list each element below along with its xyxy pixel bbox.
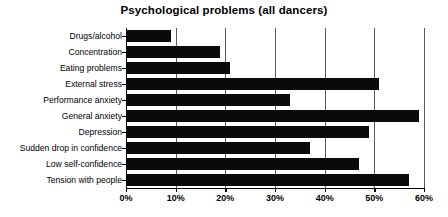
x-axis-tick-labels: 0%10%20%30%40%50%60% [0,193,448,207]
y-axis-label: Low self-confidence [0,160,122,169]
x-axis-tick [374,188,375,192]
bar [126,62,230,73]
bar-row [126,30,424,41]
bar [126,142,310,153]
x-axis-tick [225,188,226,192]
bar [126,158,359,169]
bar [126,110,419,121]
bar-row [126,126,424,137]
bar-row [126,158,424,169]
bar-series [126,28,424,188]
bar-chart: Psychological problems (all dancers) Dru… [0,0,448,217]
gridline [424,28,425,188]
y-axis-label: Concentration [0,48,122,57]
x-axis-tick-label: 40% [316,193,334,203]
x-axis-tick-label: 60% [415,193,433,203]
bar-row [126,94,424,105]
y-axis-label: General anxiety [0,112,122,121]
x-axis-tick [126,188,127,192]
x-axis-tick [424,188,425,192]
y-axis-label: Tension with people [0,176,122,185]
x-axis-tick-label: 10% [167,193,185,203]
chart-title: Psychological problems (all dancers) [0,4,448,16]
bar [126,46,220,57]
x-axis-tick-label: 30% [266,193,284,203]
y-axis-label: Performance anxiety [0,96,122,105]
y-axis-label: Depression [0,128,122,137]
bar [126,174,409,185]
bar-row [126,78,424,89]
y-axis-label: Drugs/alcohol [0,32,122,41]
x-axis-tick-label: 20% [216,193,234,203]
bar [126,94,290,105]
bar [126,30,171,41]
y-axis-label: External stress [0,80,122,89]
bar-row [126,46,424,57]
bar-row [126,62,424,73]
bar-row [126,142,424,153]
plot-area [126,28,424,188]
x-axis-tick-label: 50% [365,193,383,203]
x-axis-tick [325,188,326,192]
y-axis-label: Sudden drop in confidence [0,144,122,153]
bar-row [126,174,424,185]
bar [126,78,379,89]
y-axis-label: Eating problems [0,64,122,73]
x-axis-tick [176,188,177,192]
bar [126,126,369,137]
bar-row [126,110,424,121]
x-axis-tick [275,188,276,192]
y-axis-category-labels: Drugs/alcoholConcentrationEating problem… [0,28,122,188]
x-axis-tick-label: 0% [119,193,132,203]
